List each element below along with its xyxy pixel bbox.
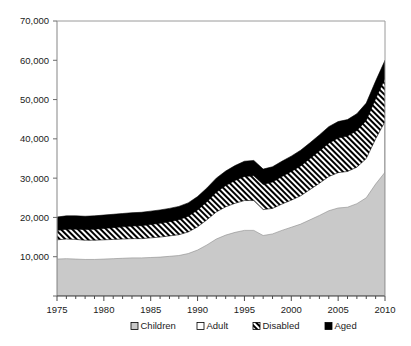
y-tick-label-20000: 20,000 [20,212,49,223]
y-tick-label-40000: 40,000 [20,133,49,144]
chart-legend: ChildrenAdultDisabledAged [131,320,357,331]
stacked-area-chart: 10,00020,00030,00040,00050,00060,00070,0… [0,0,411,346]
x-axis-tick-labels: 19751980198519901995200020052010 [46,304,395,315]
legend-label-disabled: Disabled [263,320,300,331]
legend-label-aged: Aged [335,320,357,331]
x-tick-label-1990: 1990 [187,304,208,315]
y-tick-label-70000: 70,000 [20,15,49,26]
y-tick-label-60000: 60,000 [20,55,49,66]
x-tick-label-2000: 2000 [281,304,302,315]
legend-item-adult: Adult [197,320,229,331]
legend-swatch-children [131,323,138,330]
x-axis: 19751980198519901995200020052010 [46,296,395,315]
legend-item-disabled: Disabled [253,320,299,331]
y-tick-label-30000: 30,000 [20,173,49,184]
legend-label-adult: Adult [207,320,229,331]
y-axis-tick-labels: 10,00020,00030,00040,00050,00060,00070,0… [20,15,49,262]
legend-item-aged: Aged [325,320,357,331]
x-tick-label-1975: 1975 [46,304,67,315]
y-tick-label-50000: 50,000 [20,94,49,105]
legend-swatch-adult [197,323,204,330]
y-axis: 10,00020,00030,00040,00050,00060,00070,0… [20,15,57,296]
chart-container: 10,00020,00030,00040,00050,00060,00070,0… [0,0,411,346]
x-tick-label-1985: 1985 [140,304,161,315]
x-axis-major-ticks [57,296,385,301]
x-tick-label-1980: 1980 [93,304,114,315]
legend-swatch-aged [325,323,332,330]
legend-item-children: Children [131,320,176,331]
legend-label-children: Children [141,320,176,331]
x-tick-label-2005: 2005 [328,304,349,315]
legend-swatch-disabled [253,323,260,330]
x-tick-label-2010: 2010 [374,304,395,315]
y-tick-label-10000: 10,000 [20,251,49,262]
x-tick-label-1995: 1995 [234,304,255,315]
